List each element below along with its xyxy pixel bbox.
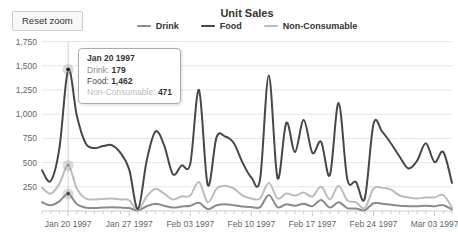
svg-text:Feb 17 1997: Feb 17 1997 xyxy=(289,219,337,229)
svg-text:Jan 20 1997: Jan 20 1997 xyxy=(45,219,92,229)
series-line-drink xyxy=(42,194,452,211)
y-axis-labels: 2505007501,0001,2501,5001,750 xyxy=(16,37,38,192)
svg-text:750: 750 xyxy=(23,133,37,143)
svg-text:1,500: 1,500 xyxy=(16,61,38,71)
svg-text:1,750: 1,750 xyxy=(16,37,38,47)
x-axis-labels: Jan 20 1997Jan 27 1997Feb 03 1997Feb 10 … xyxy=(45,219,458,229)
x-axis xyxy=(42,211,452,216)
tooltip: Jan 20 1997 Drink: 179 Food: 1,462 Non-C… xyxy=(78,48,181,104)
chart-container: Reset zoom Unit Sales Drink Food Non-Con… xyxy=(0,0,458,241)
svg-text:1,250: 1,250 xyxy=(16,85,38,95)
tooltip-date: Jan 20 1997 xyxy=(87,53,172,64)
tooltip-row-food: Food: 1,462 xyxy=(87,76,172,87)
svg-text:Jan 27 1997: Jan 27 1997 xyxy=(106,219,153,229)
svg-text:Mar 03 1997: Mar 03 1997 xyxy=(411,219,458,229)
tooltip-row-drink: Drink: 179 xyxy=(87,65,172,76)
svg-text:Feb 24 1997: Feb 24 1997 xyxy=(350,219,398,229)
tooltip-row-non-consumable: Non-Consumable: 471 xyxy=(87,87,172,98)
svg-text:Feb 10 1997: Feb 10 1997 xyxy=(227,219,275,229)
chart-plot-area[interactable]: 2505007501,0001,2501,5001,750Jan 20 1997… xyxy=(0,0,458,241)
svg-text:500: 500 xyxy=(23,158,37,168)
svg-text:1,000: 1,000 xyxy=(16,109,38,119)
svg-text:Feb 03 1997: Feb 03 1997 xyxy=(166,219,214,229)
svg-text:250: 250 xyxy=(23,182,37,192)
